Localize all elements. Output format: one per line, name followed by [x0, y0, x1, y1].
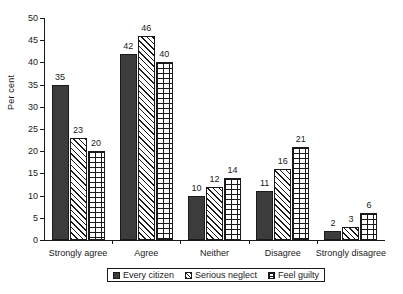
x-group-separator	[180, 240, 181, 244]
legend-label: Serious neglect	[195, 271, 257, 280]
legend-item[interactable]: Every citizen	[113, 271, 174, 280]
plot-area: 05101520253035404550 3523204246401012141…	[44, 18, 385, 240]
bar-value-label: 20	[91, 139, 101, 148]
bar-value-label: 23	[73, 126, 83, 135]
legend-label: Feel guilty	[278, 271, 319, 280]
bar-value-label: 10	[191, 184, 201, 193]
x-group-separator	[317, 240, 318, 244]
category-label: Disagree	[265, 248, 301, 258]
bar-value-label: 12	[209, 175, 219, 184]
x-axis-line	[44, 240, 385, 241]
y-tick-label: 5	[33, 213, 38, 222]
bar[interactable]: 35	[52, 85, 69, 240]
y-tick-label: 35	[28, 80, 38, 89]
legend-item[interactable]: Serious neglect	[185, 271, 257, 280]
bar[interactable]: 3	[342, 227, 359, 240]
legend-swatch-icon	[113, 272, 120, 279]
y-tick-label: 10	[28, 191, 38, 200]
bar-value-label: 2	[330, 219, 335, 228]
category-label: Neither	[200, 248, 229, 258]
bar[interactable]: 20	[88, 151, 105, 240]
bar-value-label: 40	[159, 50, 169, 59]
y-tick-label: 20	[28, 147, 38, 156]
bar-group: 424640	[112, 18, 180, 240]
x-group-separator	[249, 240, 250, 244]
legend-label: Every citizen	[123, 271, 174, 280]
bar-value-label: 3	[348, 215, 353, 224]
y-axis-title: Per cent	[6, 75, 16, 110]
bar-chart-figure: Per cent 05101520253035404550 3523204246…	[0, 0, 403, 294]
bar-value-label: 46	[141, 24, 151, 33]
bar[interactable]: 40	[156, 62, 173, 240]
category-label: Agree	[134, 248, 158, 258]
bar[interactable]: 46	[138, 36, 155, 240]
x-group-separator	[112, 240, 113, 244]
category-label: Strongly agree	[49, 248, 108, 258]
y-tick-label: 0	[33, 236, 38, 245]
category-label: Strongly disagree	[316, 248, 386, 258]
bar-value-label: 11	[260, 179, 269, 188]
bar[interactable]: 23	[70, 138, 87, 240]
bar[interactable]: 10	[188, 196, 205, 240]
legend-swatch-icon	[268, 272, 275, 279]
y-tick-label: 15	[28, 169, 38, 178]
legend-item[interactable]: Feel guilty	[268, 271, 319, 280]
bar-value-label: 42	[123, 42, 133, 51]
bar[interactable]: 12	[206, 187, 223, 240]
bar-group: 352320	[44, 18, 112, 240]
bar-value-label: 35	[55, 73, 65, 82]
bar[interactable]: 21	[292, 147, 309, 240]
bar-group: 236	[317, 18, 385, 240]
chart-legend: Every citizenSerious neglectFeel guilty	[107, 268, 325, 282]
bar-group: 101214	[180, 18, 248, 240]
bar[interactable]: 11	[256, 191, 273, 240]
y-tick-label: 30	[28, 102, 38, 111]
bar[interactable]: 6	[360, 213, 377, 240]
bar-value-label: 16	[278, 157, 288, 166]
bar-value-label: 6	[366, 201, 371, 210]
bar[interactable]: 42	[120, 54, 137, 240]
y-tick-label: 40	[28, 58, 38, 67]
bar[interactable]: 16	[274, 169, 291, 240]
bar-value-label: 21	[296, 135, 306, 144]
bar[interactable]: 14	[224, 178, 241, 240]
y-tick-label: 25	[28, 125, 38, 134]
bar-group: 111621	[249, 18, 317, 240]
y-tick-label: 45	[28, 36, 38, 45]
y-tick-label: 50	[28, 14, 38, 23]
bar[interactable]: 2	[324, 231, 341, 240]
legend-swatch-icon	[185, 272, 192, 279]
bar-value-label: 14	[227, 166, 237, 175]
y-tick	[40, 240, 44, 241]
